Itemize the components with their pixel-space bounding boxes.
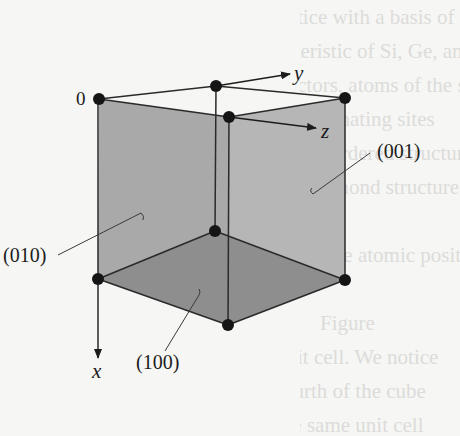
atom bbox=[222, 319, 234, 331]
bleed-line: the same unit cell bbox=[300, 408, 460, 436]
atom bbox=[339, 92, 351, 104]
atom bbox=[223, 111, 235, 123]
atom-origin bbox=[93, 93, 105, 105]
y-axis-arrow bbox=[216, 74, 290, 86]
y-axis-label: y bbox=[292, 61, 304, 85]
atom bbox=[339, 274, 351, 286]
z-axis-label: z bbox=[320, 119, 329, 143]
origin-label: 0 bbox=[76, 88, 86, 109]
atom bbox=[210, 80, 222, 92]
atom bbox=[92, 273, 104, 285]
plane-label-001: (001) bbox=[377, 140, 420, 163]
plane-label-100: (100) bbox=[136, 351, 179, 374]
x-axis-label: x bbox=[91, 359, 102, 383]
plane-label-010: (010) bbox=[3, 244, 46, 267]
atom bbox=[209, 225, 221, 237]
